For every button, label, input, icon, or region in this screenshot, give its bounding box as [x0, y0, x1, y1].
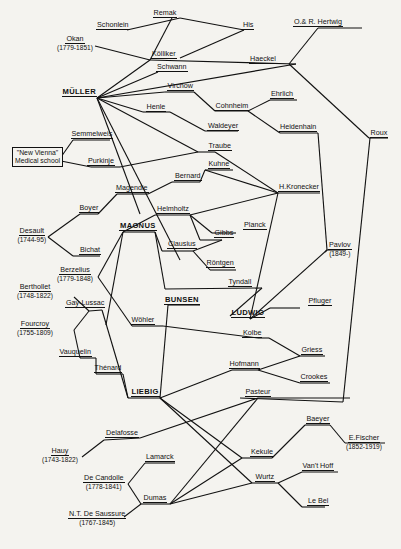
node-label: Cohnheim [215, 102, 250, 111]
edge-line [160, 398, 252, 483]
node-label: Schwann [156, 63, 188, 72]
node-label: Roux [370, 129, 389, 138]
edge-line [330, 425, 345, 443]
node-label: Berzelius [59, 266, 91, 275]
edge-line [160, 398, 242, 458]
edge-line [160, 370, 232, 398]
node-label: Griess [301, 346, 324, 355]
node-lebel: Le Bel [307, 497, 329, 506]
node-label: Kölliker [151, 50, 177, 59]
edge-line [128, 463, 145, 484]
edge-line [97, 64, 296, 98]
node-magendie: Magendie [115, 184, 149, 193]
node-label: De Candolle [83, 474, 125, 483]
node-kronecker: H.Kronecker [278, 183, 320, 192]
edge-line [248, 111, 280, 133]
node-label: Bernard [174, 172, 202, 181]
node-label: Röntgen [206, 259, 235, 268]
node-label: O.& R. Hertwig [293, 18, 343, 27]
node-traube: Traube [208, 142, 233, 151]
node-label: N.T. De Saussure [68, 510, 126, 519]
node-label: Ehrlich [270, 90, 294, 99]
node-label: MAGNUS [119, 222, 157, 231]
edge-line [165, 288, 262, 289]
node-wohler: Wöhler [131, 316, 156, 325]
box-line-1: "New Vienna" [17, 149, 58, 156]
node-years: (1778-1841) [83, 483, 125, 490]
node-label: Schonlein [96, 21, 130, 30]
edge-line [140, 398, 258, 438]
node-tyndall: Tyndall [228, 278, 253, 287]
node-delafosse: Delafosse [105, 429, 139, 438]
node-fischer: E.Fischer(1852-1919) [346, 434, 382, 450]
node-label: His [242, 21, 254, 30]
node-label: Pavlov [328, 241, 352, 250]
edge-line [89, 310, 102, 311]
edge-line [127, 18, 180, 30]
node-label: Kekule [250, 448, 274, 457]
node-rontgen: Röntgen [206, 259, 235, 268]
edge-line [205, 170, 278, 193]
node-label: Fourcroy [20, 320, 50, 329]
node-label: Van't Hoff [302, 462, 335, 471]
node-years: (1743-1822) [42, 456, 78, 463]
node-okan: Okan(1779-1851) [57, 35, 93, 51]
node-kolbe: Kolbe [242, 329, 262, 338]
node-pavlov: Pavlov(1849-) [328, 241, 352, 257]
edge-line [193, 240, 222, 251]
node-hofmann: Hofmann [229, 360, 260, 369]
edge-line [123, 374, 128, 398]
node-gaylussac: Gay-Lussac [65, 299, 105, 308]
node-label: Purkinje [87, 157, 115, 166]
node-label: Waldeyer [207, 122, 239, 131]
node-fourcroy: Fourcroy(1755-1809) [17, 320, 53, 336]
node-label: Crookes [300, 373, 329, 382]
edge-line [48, 237, 73, 256]
node-label: Delafosse [105, 429, 139, 438]
node-virchow: Virchow [167, 82, 194, 91]
edge-line [120, 152, 198, 167]
node-thenard: Thénard [94, 364, 123, 373]
node-years: (1748-1822) [17, 292, 53, 299]
node-henle: Henle [146, 103, 167, 112]
edge-line [102, 310, 128, 398]
edge-line [95, 46, 150, 60]
node-hertwig: O.& R. Hertwig [293, 18, 343, 27]
edge-line [97, 98, 180, 260]
edge-line [278, 472, 302, 483]
edge-line [170, 112, 205, 131]
node-his: His [242, 21, 254, 30]
node-clausius: Clausius [167, 240, 197, 249]
edge-line [104, 438, 140, 440]
node-label: Thénard [94, 364, 123, 373]
node-kolliker: Kölliker [151, 50, 177, 59]
node-purkinje: Purkinje [87, 157, 115, 166]
edge-line [48, 214, 80, 237]
node-label: Haeckel [249, 55, 277, 64]
edge-line [269, 338, 300, 356]
new-vienna-medical-school-box: "New Vienna" Medical school [12, 147, 63, 167]
node-kuhne: Kuhne [208, 160, 231, 169]
node-bernard: Bernard [174, 172, 202, 181]
node-boyer: Boyer [79, 204, 100, 213]
node-kekule: Kekule [250, 448, 274, 457]
node-ludwig: LUDWIG [231, 309, 266, 318]
node-waldeyer: Waldeyer [207, 122, 239, 131]
node-years: (1849-) [328, 250, 352, 257]
node-label: Kolbe [242, 329, 262, 338]
edge-line [97, 92, 165, 98]
node-bunsen: BUNSEN [164, 296, 200, 305]
node-decandolle: De Candolle(1778-1841) [83, 474, 125, 490]
edge-line [194, 92, 215, 111]
node-berzelius: Berzelius(1779-1848) [57, 266, 93, 282]
edge-line [170, 398, 258, 504]
node-label: Heidenhain [279, 123, 317, 132]
node-ehrlich: Ehrlich [270, 90, 294, 99]
node-label: Berthollet [19, 283, 51, 292]
edge-line [128, 484, 141, 504]
edge-line [106, 232, 123, 325]
edge-line [155, 232, 165, 289]
edge-line [180, 30, 244, 58]
edge-line [258, 370, 300, 383]
node-label: H.Kronecker [278, 183, 320, 192]
